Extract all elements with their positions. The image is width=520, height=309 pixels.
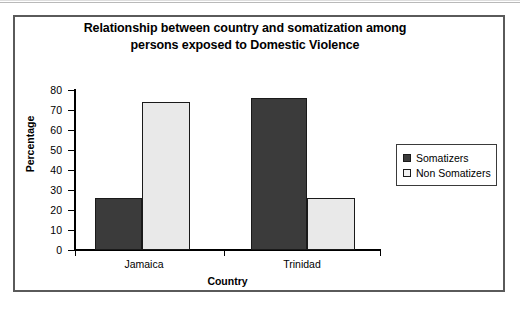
bar-trinidad-non-somatizers bbox=[307, 198, 355, 250]
dark-swatch-icon bbox=[403, 154, 411, 162]
y-tick-label-0: 0 bbox=[38, 245, 62, 255]
legend-item-somatizers: Somatizers bbox=[403, 150, 491, 165]
y-tick-70 bbox=[68, 110, 74, 111]
y-axis-line bbox=[74, 89, 76, 251]
plot-area: 80 70 60 50 40 30 20 10 0 Percentage Jam… bbox=[0, 0, 520, 309]
y-tick-label-20-wrap: 20 bbox=[38, 205, 62, 215]
x-category-label-jamaica: Jamaica bbox=[84, 258, 204, 270]
x-tick-start bbox=[75, 250, 76, 256]
legend-item-non-somatizers: Non Somatizers bbox=[403, 165, 491, 180]
y-tick-50 bbox=[68, 150, 74, 151]
y-tick-label-30-wrap: 30 bbox=[38, 185, 62, 195]
x-tick-divider bbox=[224, 250, 225, 256]
y-tick-label-10: 10 bbox=[38, 225, 62, 235]
y-tick-0 bbox=[68, 250, 74, 251]
y-tick-60 bbox=[68, 130, 74, 131]
y-axis-title: Percentage bbox=[24, 104, 36, 184]
y-tick-label-20: 20 bbox=[38, 205, 62, 215]
legend-label-somatizers: Somatizers bbox=[416, 152, 469, 164]
y-tick-label-60-wrap: 60 bbox=[38, 125, 62, 135]
x-tick-end bbox=[380, 250, 381, 256]
y-tick-30 bbox=[68, 190, 74, 191]
y-tick-label-70-wrap: 70 bbox=[38, 105, 62, 115]
y-tick-label-40: 40 bbox=[38, 165, 62, 175]
y-tick-label-0-wrap: 0 bbox=[38, 245, 62, 255]
legend-label-non-somatizers: Non Somatizers bbox=[416, 167, 491, 179]
y-tick-label-50-wrap: 50 bbox=[38, 145, 62, 155]
y-tick-label-80-wrap: 80 bbox=[38, 85, 62, 95]
y-tick-20 bbox=[68, 210, 74, 211]
x-axis-title: Country bbox=[0, 275, 455, 287]
y-tick-10 bbox=[68, 230, 74, 231]
bar-jamaica-non-somatizers bbox=[142, 102, 190, 250]
y-tick-80 bbox=[68, 90, 74, 91]
x-category-label-trinidad: Trinidad bbox=[242, 258, 362, 270]
bar-trinidad-somatizers bbox=[251, 98, 307, 250]
light-swatch-icon bbox=[403, 169, 411, 177]
y-tick-40 bbox=[68, 170, 74, 171]
y-tick-label-70: 70 bbox=[38, 105, 62, 115]
y-tick-label-40-wrap: 40 bbox=[38, 165, 62, 175]
y-tick-label-60: 60 bbox=[38, 125, 62, 135]
chart-legend: Somatizers Non Somatizers bbox=[396, 144, 497, 186]
y-tick-label-30: 30 bbox=[38, 185, 62, 195]
y-tick-label-50: 50 bbox=[38, 145, 62, 155]
y-tick-label-10-wrap: 10 bbox=[38, 225, 62, 235]
bar-jamaica-somatizers bbox=[95, 198, 142, 250]
y-tick-label-80: 80 bbox=[38, 85, 62, 95]
